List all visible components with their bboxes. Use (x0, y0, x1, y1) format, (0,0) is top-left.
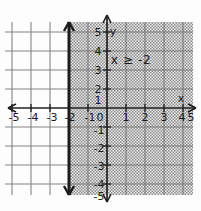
x-tick-label: 1 (123, 111, 130, 124)
coordinate-plane-svg: -5 -4 -3 -2 -1 1 2 3 4 5 5 4 3 2 1 -1 -2… (0, 0, 201, 211)
x-tick-label: -1 (85, 111, 96, 124)
y-tick-label: -2 (94, 142, 105, 155)
x-tick-label: 4 (179, 111, 186, 124)
y-tick-label: -1 (94, 124, 105, 137)
y-tick-label: 3 (95, 64, 102, 77)
x-tick-label: 2 (142, 111, 149, 124)
x-axis-name-label: x (178, 92, 185, 105)
x-tick-label: -3 (47, 111, 58, 124)
origin-label: 0 (97, 111, 104, 124)
inequality-graph-figure: -5 -4 -3 -2 -1 1 2 3 4 5 5 4 3 2 1 -1 -2… (0, 0, 201, 211)
y-axis-name-label: y (110, 25, 117, 38)
y-tick-label: -5 (94, 190, 105, 203)
x-tick-label: 5 (188, 111, 195, 124)
inequality-annotation-label: x ≥ -2 (111, 53, 151, 67)
y-tick-label: 5 (95, 26, 102, 39)
x-tick-label: 3 (161, 111, 168, 124)
x-tick-label: -4 (28, 111, 39, 124)
y-tick-label: 1 (95, 94, 102, 107)
x-tick-label: -2 (65, 111, 76, 124)
x-tick-label: -5 (9, 111, 20, 124)
y-tick-label: -3 (94, 160, 105, 173)
y-tick-label: 4 (95, 45, 102, 58)
